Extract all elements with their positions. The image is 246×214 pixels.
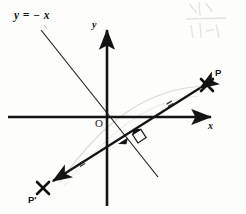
point-p-prime-marker: [37, 182, 49, 194]
geometry-figure: y = − x y x O P P': [0, 0, 246, 214]
figure-canvas: [0, 0, 246, 214]
segment-p-to-p-prime: [53, 88, 200, 181]
origin-label: O: [95, 118, 103, 129]
point-p-prime-label: P': [28, 195, 37, 205]
label-leader-tick: [44, 25, 47, 29]
y-axis-label: y: [92, 20, 96, 30]
line-equation-label: y = − x: [14, 10, 50, 22]
point-p-label: P: [215, 68, 221, 78]
x-axis-label: x: [208, 121, 213, 131]
point-p-marker: [201, 79, 213, 91]
handwritten-scribble: [186, 2, 226, 38]
